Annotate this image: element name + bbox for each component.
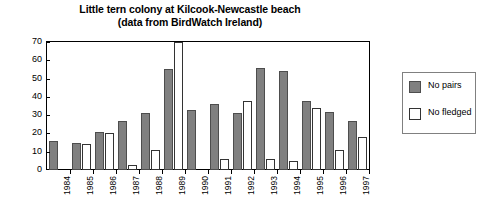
y-axis-tick-mark	[46, 97, 50, 98]
x-axis-label-1992: 1992	[247, 176, 256, 195]
x-axis-tick-mark	[139, 170, 140, 174]
bar-no-fledged-1985	[82, 144, 91, 170]
bar-group	[208, 42, 231, 170]
chart-title: Little tern colony at Kilcook-Newcastle …	[0, 3, 380, 29]
x-axis-label-1995: 1995	[316, 176, 325, 195]
legend-item-no-pairs: No pairs	[409, 80, 474, 93]
x-axis-label-1991: 1991	[224, 176, 233, 195]
bar-no-fledged-1996	[335, 150, 344, 170]
bar-no-pairs-1986	[95, 132, 104, 170]
x-axis-label-1993: 1993	[270, 176, 279, 195]
bar-group	[254, 42, 277, 170]
bar-group	[300, 42, 323, 170]
bar-group	[93, 42, 116, 170]
chart-title-line-2: (data from BirdWatch Ireland)	[0, 16, 380, 29]
x-axis-tick-mark	[70, 170, 71, 174]
y-axis-tick-label: 40	[20, 91, 42, 100]
y-axis-tick-mark	[46, 60, 50, 61]
y-axis-tick-label: 0	[20, 165, 42, 174]
bar-no-fledged-1989	[174, 42, 183, 170]
x-axis-tick-mark	[323, 170, 324, 174]
bar-no-pairs-1990	[187, 110, 196, 170]
y-axis-labels: 010203040506070	[18, 41, 42, 170]
x-axis-label-1989: 1989	[178, 176, 187, 195]
bar-no-pairs-1993	[256, 68, 265, 170]
bar-no-pairs-1985	[72, 143, 81, 170]
legend-label: No fledged	[428, 107, 474, 118]
bar-no-pairs-1984	[49, 141, 58, 170]
x-axis-tick-mark	[208, 170, 209, 174]
bar-no-fledged-1988	[151, 150, 160, 170]
chart-legend: No pairsNo fledged	[402, 72, 476, 134]
bar-no-fledged-1993	[266, 159, 275, 170]
bar-group	[277, 42, 300, 170]
bar-group	[323, 42, 346, 170]
x-axis-label-1984: 1984	[63, 176, 72, 195]
y-axis-tick-mark	[46, 152, 50, 153]
chart-title-line-1: Little tern colony at Kilcook-Newcastle …	[0, 3, 380, 16]
y-axis-tick-label: 30	[20, 110, 42, 119]
x-axis-label-1988: 1988	[155, 176, 164, 195]
bar-group	[162, 42, 185, 170]
bar-no-fledged-1995	[312, 108, 321, 170]
y-axis-tick-label: 20	[20, 128, 42, 137]
x-axis-label-1986: 1986	[109, 176, 118, 195]
legend-item-no-fledged: No fledged	[409, 107, 474, 120]
x-axis-tick-mark	[162, 170, 163, 174]
bar-chart-figure: Little tern colony at Kilcook-Newcastle …	[0, 0, 493, 214]
y-axis-tick-label: 60	[20, 55, 42, 64]
x-axis-tick-mark	[277, 170, 278, 174]
bar-group	[47, 42, 70, 170]
y-axis-tick-mark	[46, 133, 50, 134]
y-axis-tick-mark	[46, 79, 50, 80]
x-axis-label-1985: 1985	[86, 176, 95, 195]
bar-group	[139, 42, 162, 170]
y-axis-tick-label: 70	[20, 37, 42, 46]
x-axis-label-1994: 1994	[293, 176, 302, 195]
y-axis-tick-label: 50	[20, 73, 42, 82]
legend-swatch-pairs	[409, 81, 421, 93]
bar-group	[185, 42, 208, 170]
x-axis-label-1997: 1997	[362, 176, 371, 195]
plot-area	[47, 42, 369, 170]
bar-no-pairs-1988	[141, 113, 150, 170]
y-axis-tick-mark	[46, 42, 50, 43]
bar-no-pairs-1994	[279, 71, 288, 170]
bar-group	[116, 42, 139, 170]
x-axis-label-1987: 1987	[132, 176, 141, 195]
bar-group	[70, 42, 93, 170]
bar-no-fledged-1991	[220, 159, 229, 170]
bar-no-pairs-1995	[302, 101, 311, 170]
bar-no-fledged-1986	[105, 133, 114, 170]
bar-group	[231, 42, 254, 170]
x-axis-label-1990: 1990	[201, 176, 210, 195]
x-axis-tick-mark	[300, 170, 301, 174]
bar-no-pairs-1996	[325, 112, 334, 171]
y-axis-tick-mark	[46, 115, 50, 116]
bar-no-pairs-1997	[348, 121, 357, 170]
legend-label: No pairs	[428, 80, 474, 91]
y-axis-tick-label: 10	[20, 146, 42, 155]
bar-no-fledged-1987	[128, 165, 137, 170]
bar-group	[346, 42, 369, 170]
bar-no-pairs-1991	[210, 104, 219, 170]
bar-no-fledged-1992	[243, 101, 252, 170]
x-axis-tick-mark	[185, 170, 186, 174]
x-axis-tick-mark	[93, 170, 94, 174]
x-axis-tick-mark	[369, 170, 370, 174]
bar-no-pairs-1989	[164, 69, 173, 170]
bar-no-pairs-1992	[233, 113, 242, 170]
legend-swatch-fledged	[409, 108, 421, 120]
bar-no-pairs-1987	[118, 121, 127, 170]
x-axis-tick-mark	[231, 170, 232, 174]
bar-no-fledged-1994	[289, 161, 298, 170]
x-axis-tick-mark	[346, 170, 347, 174]
x-axis-label-1996: 1996	[339, 176, 348, 195]
bar-no-fledged-1997	[358, 137, 367, 170]
x-axis-tick-mark	[116, 170, 117, 174]
x-axis-tick-mark	[254, 170, 255, 174]
